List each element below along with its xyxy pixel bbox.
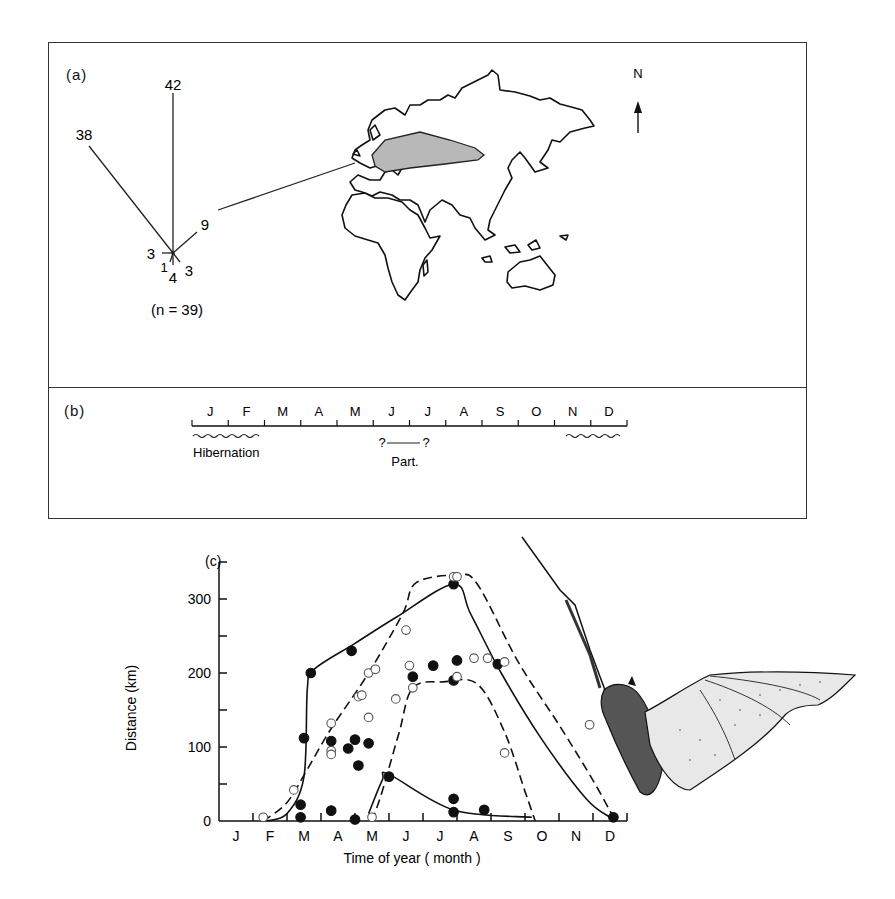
- bat-illustration: [0, 0, 895, 899]
- bat-wing: [645, 672, 855, 790]
- bat-ear-icon: [628, 676, 636, 686]
